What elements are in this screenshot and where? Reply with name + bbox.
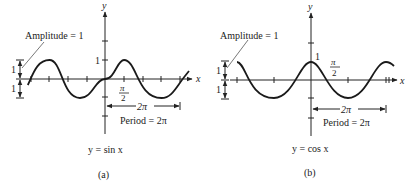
amplitude-label: Amplitude = 1 bbox=[25, 30, 83, 41]
equation-label: y = cos x bbox=[292, 143, 328, 154]
x-axis-label: x bbox=[399, 75, 405, 86]
panel-caption: (b) bbox=[304, 167, 316, 179]
y-tick-label-1: 1 bbox=[95, 55, 100, 66]
amplitude-marker bbox=[16, 60, 24, 98]
equation-label: y = sin x bbox=[88, 144, 123, 155]
x-tick-label-pi-over-2-num: π bbox=[331, 57, 336, 67]
y-tick-label-1: 1 bbox=[315, 51, 320, 62]
panel-caption: (a) bbox=[98, 169, 109, 181]
panel-b: y x 1 π 2 1 1 Amplitude = 1 bbox=[216, 1, 405, 179]
panel-a: y x 1 π 2 bbox=[11, 0, 201, 181]
period-label: Period = 2π bbox=[323, 117, 370, 128]
x-tick-label-pi-over-2-num: π bbox=[120, 83, 125, 93]
amplitude-unit-bottom: 1 bbox=[216, 84, 221, 95]
x-tick-label-pi-over-2-den: 2 bbox=[121, 93, 126, 103]
y-axis-label: y bbox=[307, 1, 313, 12]
period-span-label: 2π bbox=[137, 101, 148, 112]
x-tick-label-pi-over-2-den: 2 bbox=[332, 68, 337, 78]
amplitude-label: Amplitude = 1 bbox=[220, 30, 278, 41]
period-span-label: 2π bbox=[341, 104, 352, 115]
period-label: Period = 2π bbox=[120, 115, 167, 126]
x-axis-label: x bbox=[195, 73, 201, 84]
trig-graphs-figure: y x 1 π 2 bbox=[0, 0, 417, 192]
amplitude-unit-top: 1 bbox=[216, 65, 221, 76]
amplitude-unit-top: 1 bbox=[11, 64, 16, 75]
amplitude-leader-line bbox=[227, 40, 248, 68]
y-axis-label: y bbox=[101, 0, 107, 11]
amplitude-unit-bottom: 1 bbox=[11, 83, 16, 94]
